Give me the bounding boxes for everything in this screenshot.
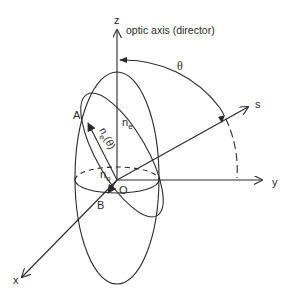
theta-arc-arrow-start [119,57,127,63]
origin-label: O [119,184,128,196]
x-axis [22,180,117,277]
s-axis-label: s [255,98,261,110]
point-b-label: B [97,199,104,211]
no-label: no [100,168,111,183]
theta-arc [120,60,220,108]
optic-axis-label: optic axis (director) [126,24,215,36]
theta-label: θ [177,59,183,73]
ne-theta-label: ne(θ) [95,125,119,152]
ne-label: ne [122,116,133,131]
index-ellipsoid-diagram: z optic axis (director) y x s θ A B O ne… [0,0,292,299]
x-axis-label: x [13,274,19,286]
theta-arc-arrow-end [218,115,225,123]
y-axis-label: y [272,176,278,188]
z-axis-label: z [114,14,120,26]
point-a-label: A [73,109,81,121]
